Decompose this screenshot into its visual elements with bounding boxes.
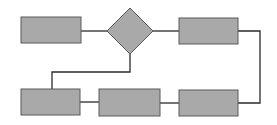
flowchart-diagram xyxy=(0,0,277,125)
decision-diamond xyxy=(107,8,153,54)
box-top-right xyxy=(179,18,238,44)
box-bottom-right xyxy=(179,90,238,116)
box-bottom-middle xyxy=(99,89,160,116)
box-top-left xyxy=(21,17,81,43)
connector-box-top-right-to-box-bottom-right xyxy=(238,31,260,103)
connector-decision-to-box-bottom-left xyxy=(52,54,130,89)
flowchart-canvas xyxy=(0,0,277,125)
box-bottom-left xyxy=(21,89,80,115)
